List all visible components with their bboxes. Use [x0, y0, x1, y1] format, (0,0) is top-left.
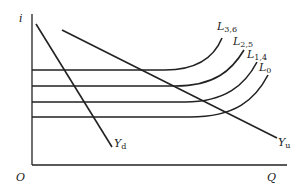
curve-L36 [32, 38, 222, 70]
y-axis-label: i [19, 13, 23, 24]
origin-label: O [16, 172, 25, 183]
label-L36: L3,6 [217, 21, 237, 34]
label-L0: L0 [259, 62, 271, 75]
x-axis-label: Q [267, 172, 276, 183]
diagram-canvas [0, 0, 304, 189]
label-Yu: Yu [278, 137, 290, 150]
curve-L0 [32, 75, 268, 117]
label-Yd: Yd [114, 138, 126, 151]
curve-L14 [32, 62, 257, 102]
